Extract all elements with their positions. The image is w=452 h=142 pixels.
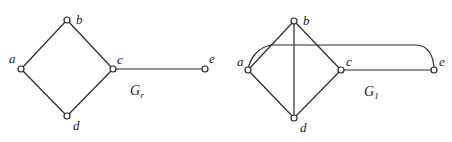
graph-label-g-1: G1 xyxy=(364,84,379,101)
vertex-label-b: b xyxy=(303,13,310,28)
vertex-e xyxy=(202,66,208,72)
vertex-c xyxy=(338,67,344,73)
vertex-b xyxy=(291,18,297,24)
vertex-label-c: c xyxy=(117,52,123,67)
vertex-label-d: d xyxy=(300,120,307,135)
edge-b-c xyxy=(67,20,113,69)
vertex-e xyxy=(431,67,437,73)
vertex-label-c: c xyxy=(346,54,352,69)
vertex-d xyxy=(291,115,297,121)
edge-c-d xyxy=(294,70,341,118)
graph-g-1: a b c d e G1 xyxy=(237,13,445,135)
vertex-label-a: a xyxy=(9,51,16,66)
edge-a-b xyxy=(21,20,67,69)
vertex-b xyxy=(64,17,70,23)
edge-d-a xyxy=(248,70,294,118)
edge-c-d xyxy=(67,69,113,116)
graph-g-r: a b c d e Gr xyxy=(9,12,215,133)
vertex-c xyxy=(110,66,116,72)
graph-label-g-r: Gr xyxy=(130,83,144,100)
vertex-label-b: b xyxy=(76,12,83,27)
graph-diagram: a b c d e Gr a b c d e G1 xyxy=(0,0,452,142)
vertex-label-e: e xyxy=(209,51,215,66)
edge-a-e-curved xyxy=(248,45,434,70)
vertex-label-a: a xyxy=(237,54,244,69)
edge-d-a xyxy=(21,69,67,116)
vertex-a xyxy=(18,66,24,72)
vertex-label-d: d xyxy=(73,118,80,133)
vertex-d xyxy=(64,113,70,119)
vertex-a xyxy=(245,67,251,73)
vertex-label-e: e xyxy=(439,54,445,69)
